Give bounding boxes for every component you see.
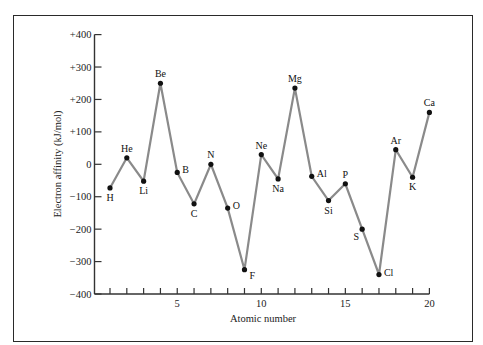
x-tick-label: 15 [340,298,351,309]
point-labels: HHeLiBeBCNOFNeNaMgAlSiPSClArKCa [106,68,435,280]
point-label: Mg [288,73,302,84]
data-point-marker [276,176,281,181]
data-point-marker [124,155,129,160]
data-point-marker [191,201,196,206]
data-series [107,81,432,278]
y-tick-label: −100 [70,191,92,202]
x-tick-label: 10 [256,298,267,309]
data-point-marker [427,110,432,115]
point-label: Cl [384,267,394,278]
x-tick-label: 5 [175,298,180,309]
data-point-marker [326,198,331,203]
point-label: S [354,231,360,242]
point-label: Ne [255,140,267,151]
point-label: Na [272,183,284,194]
data-point-marker [259,152,264,157]
data-point-marker [410,175,415,180]
y-tick-label: −300 [70,256,92,267]
point-label: He [121,143,133,154]
y-axis-title: Electron affinity (kJ/mol) [52,110,64,218]
point-label: Li [139,185,148,196]
point-label: C [191,208,198,219]
point-label: Be [155,68,167,79]
y-tick-label: −200 [70,224,92,235]
x-tick-label: 20 [424,298,435,309]
point-label: K [409,181,417,192]
point-label: N [207,149,214,160]
point-label: Ca [424,97,436,108]
data-point-marker [208,162,213,167]
data-point-marker [376,272,381,277]
series-line [110,83,429,274]
point-label: H [106,192,113,203]
y-tick-label: +100 [70,126,92,137]
data-point-marker [175,170,180,175]
y-tick-label: +200 [70,94,92,105]
data-point-marker [242,267,247,272]
data-point-marker [343,181,348,186]
point-label: Si [324,205,333,216]
data-point-marker [360,227,365,232]
y-tick-label: +400 [70,29,92,40]
point-label: P [343,169,349,180]
data-point-marker [158,81,163,86]
y-tick-label: +300 [70,62,92,73]
electron-affinity-chart: +400+300+200+1000−100−200−300−4005101520… [0,0,483,345]
point-label: F [249,270,255,281]
data-point-marker [107,185,112,190]
data-point-marker [292,86,297,91]
point-label: B [182,164,189,175]
data-point-marker [309,174,314,179]
point-label: Al [317,168,327,179]
point-label: O [233,200,240,211]
data-point-marker [225,205,230,210]
y-tick-label: 0 [86,159,91,170]
data-point-marker [393,147,398,152]
point-label: Ar [390,135,401,146]
data-point-marker [141,179,146,184]
y-tick-label: −400 [70,289,92,300]
x-axis-title: Atomic number [230,313,297,324]
